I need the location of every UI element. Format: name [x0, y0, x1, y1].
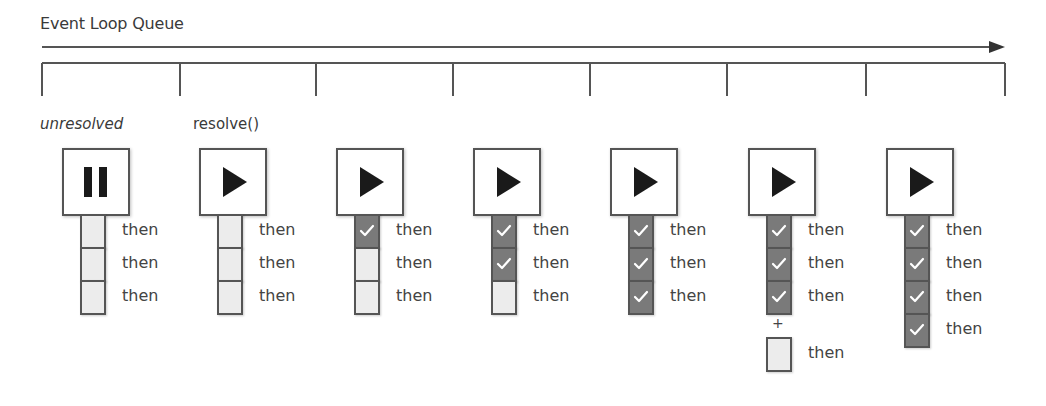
play-icon [610, 148, 678, 216]
pending-then-cell [354, 280, 380, 315]
added-pending-then-cell [766, 337, 792, 372]
timeline [0, 0, 1046, 110]
resolved-then-cell [904, 214, 930, 249]
then-label: then [533, 253, 569, 272]
resolved-then-cell [354, 214, 380, 249]
resolved-then-cell [766, 280, 792, 315]
resolved-then-cell [628, 247, 654, 282]
resolved-then-cell [904, 313, 930, 348]
then-label: then [533, 286, 569, 305]
then-label: then [808, 220, 844, 239]
then-label: then [946, 220, 982, 239]
promise-step: thenthenthen [62, 148, 202, 398]
then-label: then [946, 286, 982, 305]
then-label: then [122, 220, 158, 239]
resolved-then-cell [904, 247, 930, 282]
arrow-head-icon [989, 41, 1005, 53]
promise-step: thenthenthenthen [886, 148, 1026, 398]
then-label: then [259, 286, 295, 305]
pending-then-cell [217, 280, 243, 315]
then-label: then [122, 286, 158, 305]
then-label: then [946, 253, 982, 272]
pending-then-cell [80, 214, 106, 249]
then-label: then [122, 253, 158, 272]
then-label: then [946, 319, 982, 338]
pending-then-cell [354, 247, 380, 282]
then-label: then [670, 286, 706, 305]
then-label: then [396, 220, 432, 239]
then-label: then [808, 343, 844, 362]
then-label: then [533, 220, 569, 239]
then-label: then [396, 286, 432, 305]
play-icon [748, 148, 816, 216]
pending-then-cell [491, 280, 517, 315]
then-label: then [670, 220, 706, 239]
promise-step: thenthenthen [199, 148, 339, 398]
play-icon [336, 148, 404, 216]
state-label: unresolved [40, 115, 123, 133]
then-label: then [259, 220, 295, 239]
resolved-then-cell [491, 214, 517, 249]
then-label: then [259, 253, 295, 272]
promise-step: thenthenthen [473, 148, 613, 398]
then-label: then [808, 286, 844, 305]
play-icon [473, 148, 541, 216]
resolved-then-cell [766, 214, 792, 249]
resolved-then-cell [628, 214, 654, 249]
play-icon [886, 148, 954, 216]
promise-step: thenthenthen [336, 148, 476, 398]
pending-then-cell [80, 280, 106, 315]
promise-step: thenthenthen+then [748, 148, 888, 398]
resolved-then-cell [904, 280, 930, 315]
plus-icon: + [772, 315, 784, 331]
pause-icon [62, 148, 130, 216]
pending-then-cell [80, 247, 106, 282]
resolved-then-cell [491, 247, 517, 282]
promise-step: thenthenthen [610, 148, 750, 398]
resolved-then-cell [628, 280, 654, 315]
play-icon [199, 148, 267, 216]
state-label: resolve() [193, 115, 259, 133]
then-label: then [808, 253, 844, 272]
timeline-ticks [42, 63, 1005, 96]
resolved-then-cell [766, 247, 792, 282]
pending-then-cell [217, 247, 243, 282]
then-label: then [670, 253, 706, 272]
then-label: then [396, 253, 432, 272]
pending-then-cell [217, 214, 243, 249]
